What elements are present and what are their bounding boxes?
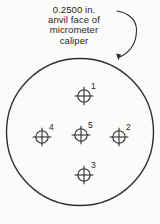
datum-target-point-1: 1 <box>75 81 96 106</box>
leader-arrow-line <box>117 11 137 57</box>
figure-anvil-face-diagram: 0.2500 in. anvil face of micrometer cali… <box>0 0 160 224</box>
point-number-label: 3 <box>91 160 96 170</box>
datum-target-point-2: 2 <box>110 122 131 147</box>
datum-target-point-4: 4 <box>33 122 54 147</box>
diagram-canvas: 12345 <box>0 0 160 224</box>
point-number-label: 2 <box>126 122 131 132</box>
datum-points-layer: 12345 <box>33 81 131 185</box>
anvil-face-circle <box>7 59 154 206</box>
point-number-label: 4 <box>49 122 54 132</box>
point-number-label: 5 <box>88 120 93 130</box>
point-number-label: 1 <box>91 81 96 91</box>
datum-target-point-5: 5 <box>72 120 93 145</box>
datum-target-point-3: 3 <box>75 160 96 185</box>
